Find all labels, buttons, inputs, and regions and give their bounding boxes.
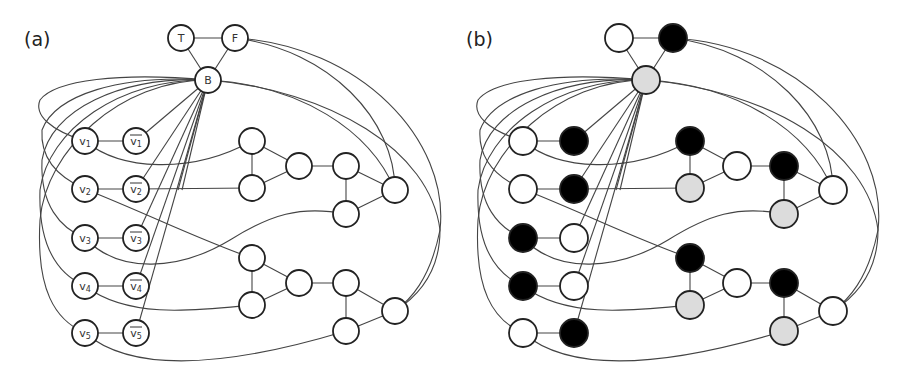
node-a1 — [239, 128, 265, 154]
edge — [136, 188, 252, 189]
node-nv1 — [560, 127, 588, 155]
node-a5 — [770, 200, 798, 228]
node-b6 — [382, 298, 408, 324]
node-T — [605, 24, 633, 52]
node-a4 — [770, 152, 798, 180]
edge — [523, 189, 690, 258]
edge — [39, 77, 208, 141]
edge — [574, 80, 646, 238]
edge — [85, 286, 252, 310]
node-b4 — [333, 270, 359, 296]
node-a2 — [239, 175, 265, 201]
panel-b — [477, 24, 879, 361]
node-a1 — [676, 127, 704, 155]
graph-canvas: TFBv1v1v2v2v3v3v4v4v5v5 — [0, 0, 916, 378]
node-v1 — [509, 127, 537, 155]
node-label: F — [232, 32, 238, 45]
edge — [620, 80, 646, 190]
node-v2: v2 — [72, 176, 98, 202]
edge — [42, 80, 208, 238]
node-b5 — [333, 318, 359, 344]
node-a2 — [676, 174, 704, 202]
node-nv2 — [560, 175, 588, 203]
node-label: T — [177, 32, 185, 45]
node-b6 — [819, 297, 847, 325]
node-label: B — [204, 74, 212, 87]
edge — [136, 80, 208, 238]
node-nv2: v2 — [123, 176, 149, 202]
node-v4: v4 — [72, 273, 98, 299]
edge — [480, 80, 646, 238]
node-nv5: v5 — [123, 320, 149, 346]
edge — [574, 188, 690, 189]
node-a5 — [333, 201, 359, 227]
edges — [39, 38, 441, 361]
edge — [523, 286, 690, 310]
node-nv4: v4 — [123, 273, 149, 299]
node-b2 — [676, 291, 704, 319]
node-b3 — [723, 269, 751, 297]
edge — [85, 189, 252, 258]
node-B: B — [195, 67, 221, 93]
node-a6 — [819, 176, 847, 204]
node-nv1: v1 — [123, 128, 149, 154]
node-F — [659, 24, 687, 52]
node-a6 — [382, 177, 408, 203]
edge — [523, 141, 690, 165]
node-b1 — [676, 244, 704, 272]
edge — [477, 77, 646, 141]
figure: (a) (b) TFBv1v1v2v2v3v3v4v4v5v5 — [0, 0, 916, 378]
node-b4 — [770, 269, 798, 297]
node-nv3: v3 — [123, 225, 149, 251]
node-v3 — [509, 224, 537, 252]
node-b3 — [286, 270, 312, 296]
node-v2 — [509, 175, 537, 203]
node-a3 — [286, 153, 312, 179]
node-v4 — [509, 272, 537, 300]
edge — [235, 38, 395, 190]
node-v3: v3 — [72, 225, 98, 251]
node-b2 — [239, 292, 265, 318]
edge — [182, 80, 208, 190]
node-nv3 — [560, 224, 588, 252]
edge — [673, 38, 833, 190]
node-a3 — [723, 152, 751, 180]
node-T: T — [168, 25, 194, 51]
node-b1 — [239, 245, 265, 271]
node-a4 — [333, 153, 359, 179]
panel-a: TFBv1v1v2v2v3v3v4v4v5v5 — [39, 25, 441, 361]
node-v5 — [509, 319, 537, 347]
node-B — [632, 66, 660, 94]
node-nv5 — [560, 319, 588, 347]
edge — [85, 141, 252, 165]
node-v5: v5 — [72, 320, 98, 346]
node-v1: v1 — [72, 128, 98, 154]
node-F: F — [222, 25, 248, 51]
node-b5 — [770, 317, 798, 345]
node-nv4 — [560, 272, 588, 300]
